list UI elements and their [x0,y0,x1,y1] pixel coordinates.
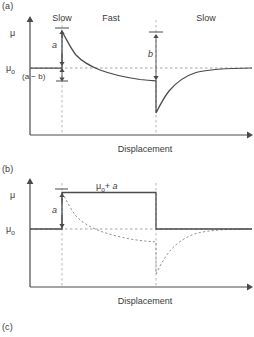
panel-b-label: (b) [2,164,13,174]
panel-b-mu0-label: μo [6,224,15,238]
panel-a-region-label-fast: Fast [87,13,135,23]
panel-a-annotation-a-minus-b: (a − b) [22,72,45,81]
panel-a-plot-area [0,0,254,163]
panel-b-plateau-label: μo+ a [96,182,118,194]
panel-a-friction-curve [30,32,252,114]
panel-b-annotation-a: a [52,205,57,215]
panel-b-y-axis-label: μ [10,190,15,200]
panel-c-label: (c) [2,322,13,332]
panel-a-y-axis-label: μ [10,28,15,38]
panel-b: (b) μ μo μo+ a a Displacement [0,163,254,318]
panel-a-axes [27,16,253,138]
panel-b-x-axis-label: Displacement [100,296,190,306]
panel-a-region-label-slow-right: Slow [182,13,230,23]
panel-b-mu0-subscript: o [11,229,15,236]
panel-b-axes [27,178,253,290]
panel-a-annotation-b: b [148,49,153,59]
panel-a-label: (a) [2,1,13,11]
panel-b-evolving-reference-curve [62,193,252,275]
panel-a-annotation-a: a [52,40,57,50]
panel-b-plateau-rest: + a [105,181,118,191]
panel-a-x-axis-label: Displacement [100,144,190,154]
panel-a-region-label-slow-left: Slow [38,13,86,23]
panel-a: (a) μ μo Slow Fast Slow a (a − b) b Disp… [0,0,254,163]
panel-a-mu0-subscript: o [11,68,15,75]
panel-a-mu0-label: μo [6,63,15,77]
panel-a-measure-a-minus-b [56,68,68,82]
panel-b-plot-area [0,163,254,318]
friction-displacement-figure: (a) μ μo Slow Fast Slow a (a − b) b Disp… [0,0,254,337]
panel-b-square-step-curve [30,193,252,230]
